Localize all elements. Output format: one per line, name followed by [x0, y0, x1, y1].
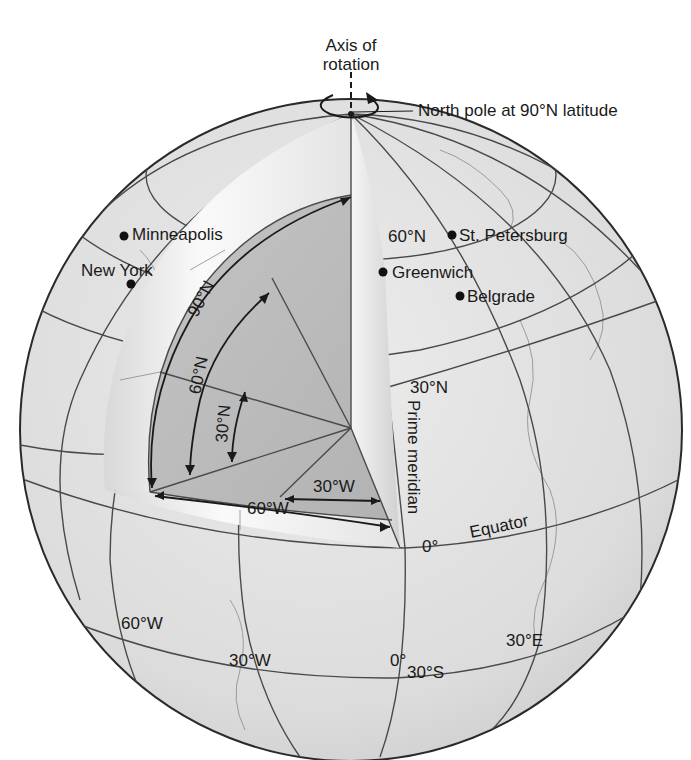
lat-30n-label: 30°N	[410, 378, 448, 397]
axis-label-line1: Axis of	[325, 36, 376, 55]
lon-30w-label: 30°W	[229, 651, 271, 670]
city-dot-icon	[448, 231, 457, 240]
svg-text:Belgrade: Belgrade	[467, 287, 535, 306]
svg-text:Greenwich: Greenwich	[392, 263, 473, 282]
axis-label-line2: rotation	[323, 55, 380, 74]
lat-60n-label: 60°N	[388, 227, 426, 246]
city-dot-icon	[120, 232, 129, 241]
lat-30s-label: 30°S	[407, 663, 444, 682]
lon-0-label: 0°	[390, 651, 406, 670]
angle-60w-label: 60°W	[247, 499, 289, 518]
globe-diagram: Axis of rotation North pole at 90°N lati…	[0, 0, 691, 760]
north-pole-label: North pole at 90°N latitude	[418, 101, 618, 120]
city-dot-icon	[456, 292, 465, 301]
svg-text:New York: New York	[81, 261, 153, 280]
city-greenwich: Greenwich	[379, 263, 474, 282]
svg-text:Minneapolis: Minneapolis	[132, 225, 223, 244]
city-minneapolis: Minneapolis	[120, 225, 223, 244]
angle-30w-label: 30°W	[313, 477, 355, 496]
equator-value-label: 0°	[422, 537, 438, 556]
city-dot-icon	[379, 268, 388, 277]
city-st-petersburg: St. Petersburg	[448, 226, 568, 245]
lon-30e-label: 30°E	[506, 631, 543, 650]
svg-text:St. Petersburg: St. Petersburg	[459, 226, 568, 245]
city-dot-icon	[127, 280, 136, 289]
lon-60w-label: 60°W	[121, 614, 163, 633]
prime-meridian-label: Prime meridian	[404, 400, 423, 514]
city-belgrade: Belgrade	[456, 287, 536, 306]
angle-30n-label: 30°N	[212, 404, 234, 443]
